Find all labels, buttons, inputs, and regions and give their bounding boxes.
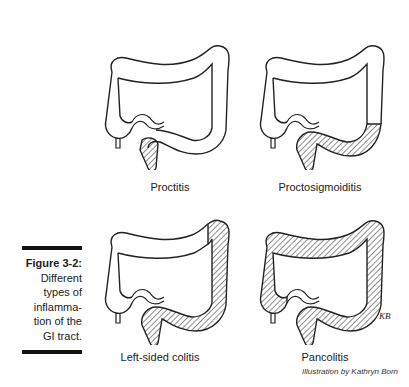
caption-line: inflamma- [2, 300, 82, 315]
illustration-credit: Illustration by Kathryn Born [302, 367, 398, 376]
figure-number: Figure 3-2: [2, 256, 82, 271]
panel-proctitis [100, 20, 240, 170]
panel-proctosigmoiditis [255, 20, 395, 170]
colon-illustration-pancolitis: KB [255, 195, 395, 345]
panel-label-pancolitis: Pancolitis [295, 351, 355, 363]
panel-label-proctosigmoiditis: Proctosigmoiditis [265, 181, 375, 193]
panel-pancolitis: KB [255, 195, 395, 345]
panel-left-sided-colitis [100, 195, 240, 345]
colon-illustration-proctosigmoiditis [255, 20, 395, 170]
artist-signature: KB [378, 311, 391, 321]
caption-line: types of [2, 285, 82, 300]
panel-label-left-sided-colitis: Left-sided colitis [110, 351, 210, 363]
caption-top-rule [22, 246, 82, 250]
caption-line: Different [2, 271, 82, 286]
caption-line: GI tract. [2, 329, 82, 344]
caption-line: tion of the [2, 314, 82, 329]
colon-illustration-left-sided-colitis [100, 195, 240, 345]
panel-label-proctitis: Proctitis [140, 181, 200, 193]
caption-bottom-rule [22, 350, 82, 354]
figure-caption: Figure 3-2: Different types of inflamma-… [2, 256, 82, 343]
colon-illustration-proctitis [100, 20, 240, 170]
